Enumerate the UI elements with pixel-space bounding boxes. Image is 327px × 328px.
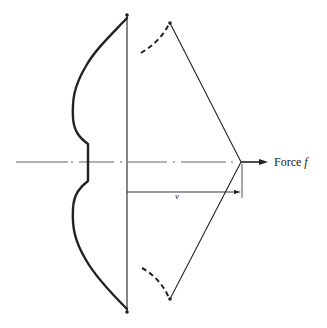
force-symbol: f [304, 155, 307, 169]
drawn-limb-bottom-dashed [142, 268, 169, 298]
bow-diagram: Force f v [0, 0, 327, 328]
drawn-limb-top-dashed [141, 24, 169, 53]
displacement-label: v [175, 191, 179, 201]
force-arrow-head [259, 159, 268, 165]
drawn-bottom-dot [168, 297, 172, 301]
force-label: Force f [274, 155, 308, 170]
bow-limbs [73, 18, 127, 309]
bowstring-drawn [170, 23, 241, 299]
drawn-top-dot [168, 21, 172, 25]
bottom-tip-dot [125, 310, 129, 314]
top-tip-dot [125, 13, 129, 17]
force-text: Force [274, 155, 301, 169]
dimension-arrow-head [234, 190, 241, 194]
